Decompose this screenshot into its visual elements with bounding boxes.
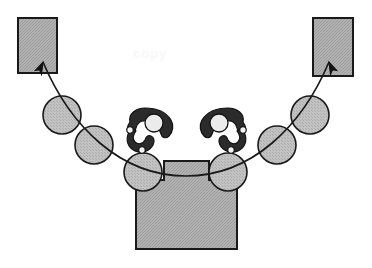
sphere-6[interactable] xyxy=(291,96,329,134)
left-claw-tip-pad-lower xyxy=(139,147,145,153)
left-target-bin-rect xyxy=(18,18,57,73)
diagram-canvas: copy xyxy=(0,0,372,268)
sphere-2[interactable] xyxy=(75,126,113,164)
right-claw-tip-pad-upper xyxy=(240,127,246,133)
diagram-svg xyxy=(0,0,372,268)
left-gripper-claw[interactable] xyxy=(127,108,173,153)
left-target-bin[interactable] xyxy=(18,18,57,73)
left-claw-tip-pad-upper xyxy=(127,127,133,133)
sphere-1[interactable] xyxy=(43,96,81,134)
right-claw-tip-pad-lower xyxy=(228,147,234,153)
right-claw-gripped-ball xyxy=(210,114,228,132)
sphere-5[interactable] xyxy=(258,126,296,164)
right-gripper-claw[interactable] xyxy=(200,108,246,153)
watermark-text: copy xyxy=(133,46,223,61)
left-claw-gripped-ball xyxy=(145,114,163,132)
